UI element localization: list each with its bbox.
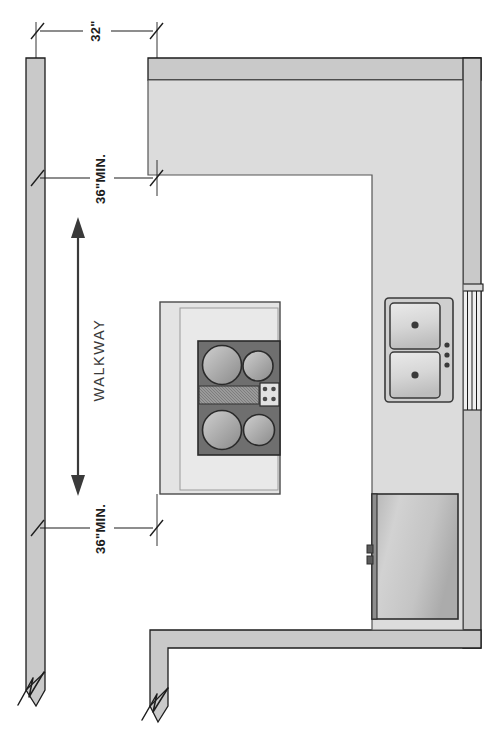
dimension-36min-lower: 36"MIN.	[31, 498, 163, 560]
wall-bottom	[142, 630, 481, 722]
walkway-label: WALKWAY	[88, 300, 110, 422]
kitchen-island	[160, 302, 280, 494]
sink-drain-upper	[411, 321, 418, 328]
wall-top	[148, 58, 481, 80]
burner-front-right	[203, 411, 242, 450]
wall-left	[18, 58, 45, 706]
dimension-36min-upper: 36"MIN.	[31, 148, 163, 210]
svg-text:WALKWAY: WALKWAY	[91, 318, 107, 401]
burner-front-left	[203, 346, 242, 385]
walkway-arrow-icon	[71, 217, 85, 496]
dimension-32in: 32"	[31, 19, 163, 43]
double-bowl-sink	[385, 298, 453, 402]
floor-plan-canvas: 32" 36"MIN. 36"MIN.	[0, 0, 502, 752]
faucet-hole-1	[444, 342, 449, 347]
faucet-hole-2	[444, 352, 449, 357]
faucet-hole-3	[444, 362, 449, 367]
floor-plan-drawing: 32" 36"MIN. 36"MIN.	[0, 0, 502, 752]
knob-2	[271, 387, 276, 392]
dimension-32in-label: 32"	[88, 20, 103, 42]
cooktop	[198, 341, 280, 455]
dimension-36min-upper-label: 36"MIN.	[93, 154, 108, 204]
knob-4	[271, 397, 276, 402]
burner-rear-left	[243, 351, 273, 381]
window-icon	[461, 284, 483, 410]
knob-1	[263, 387, 268, 392]
sink-drain-lower	[411, 371, 418, 378]
dimensions-group: 32" 36"MIN. 36"MIN.	[31, 19, 163, 560]
refrigerator	[367, 494, 458, 619]
cooktop-knob-panel[interactable]	[260, 383, 279, 406]
griddle	[199, 386, 259, 404]
burner-rear-right	[244, 415, 275, 446]
dimension-36min-lower-label: 36"MIN.	[93, 504, 108, 554]
knob-3	[263, 397, 268, 402]
